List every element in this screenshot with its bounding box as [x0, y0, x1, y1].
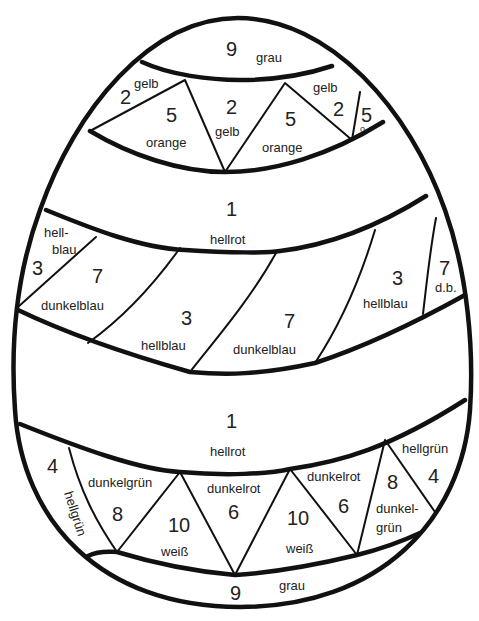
- region-label: hellrot: [210, 232, 246, 247]
- region-label: dunkelblau: [41, 298, 104, 313]
- region-number: 8: [387, 471, 398, 493]
- region-number: 6: [228, 501, 239, 523]
- region-number: 4: [428, 465, 439, 487]
- region-number: 2: [226, 96, 237, 118]
- region-label: hellrot: [210, 444, 246, 459]
- region-number: 1: [226, 410, 237, 432]
- region-number: 3: [392, 267, 403, 289]
- region-label: hell-: [44, 225, 69, 240]
- region-label: weiß: [285, 541, 314, 556]
- region-label: hellgrün: [402, 441, 448, 456]
- region-label: gelb: [134, 76, 159, 91]
- region-label: dunkelblau: [233, 342, 296, 357]
- region-number: 6: [338, 495, 349, 517]
- region-number: 2: [333, 98, 344, 120]
- region-number: 3: [181, 307, 192, 329]
- region-label: grün: [376, 520, 402, 535]
- region-number: 5: [285, 108, 296, 130]
- region-label: weiß: [160, 544, 189, 559]
- region-label: dunkelrot: [307, 469, 361, 484]
- region-label: grau: [279, 578, 305, 593]
- easter-egg-coloring-page: 9 grau 2 gelb 5 orange 2 gelb 5 orange 2…: [0, 0, 479, 621]
- region-label: d.b.: [435, 280, 457, 295]
- region-number: 5: [361, 104, 372, 126]
- region-label: orange: [262, 140, 302, 155]
- region-label: dunkelrot: [207, 481, 261, 496]
- region-label: orange: [146, 135, 186, 150]
- region-label: gelb: [215, 124, 240, 139]
- region-number: 4: [47, 455, 58, 477]
- region-number: 7: [439, 257, 450, 279]
- region-number: 10: [168, 514, 190, 536]
- region-number: 8: [112, 503, 123, 525]
- region-number: 9: [230, 582, 241, 604]
- region-number: 7: [284, 310, 295, 332]
- region-label: blau: [52, 242, 77, 257]
- region-label: dunkelgrün: [88, 475, 152, 490]
- region-label: gelb: [313, 80, 338, 95]
- region-label: dunkel-: [376, 501, 419, 516]
- top-cap-divider: [142, 62, 332, 80]
- region-number: 3: [32, 257, 43, 279]
- region-label: hellblau: [141, 338, 186, 353]
- region-label: hellblau: [363, 296, 408, 311]
- region-number: 9: [226, 38, 237, 60]
- region-number: 1: [226, 198, 237, 220]
- region-label: o.: [360, 124, 368, 134]
- region-number: 10: [287, 507, 309, 529]
- region-number: 5: [166, 104, 177, 126]
- lower-red-band-divider: [20, 400, 465, 474]
- region-number: 7: [92, 265, 103, 287]
- region-label: grau: [256, 50, 282, 65]
- region-number: 2: [120, 86, 131, 108]
